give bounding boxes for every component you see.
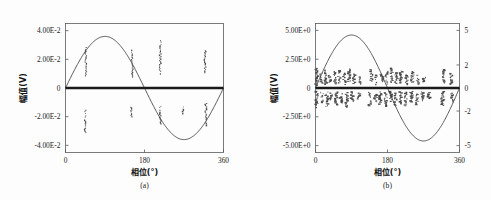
secondary-y-tick-label: -5 [465,141,471,150]
scatter-point [352,83,355,84]
scatter-point [416,75,418,76]
scatter-point [316,94,318,96]
scatter-point [160,52,161,53]
scatter-point [368,104,370,106]
x-tick-label: 360 [454,156,465,165]
scatter-point [321,101,324,102]
scatter-point [400,76,402,77]
scatter-point [412,71,414,73]
x-tick-label: 180 [382,156,393,165]
scatter-point [334,80,337,81]
scatter-point [384,93,386,94]
scatter-point [85,116,86,117]
scatter-point [371,73,373,74]
scatter-point [316,68,318,69]
scatter-point [443,80,445,81]
scatter-point [315,81,317,82]
scatter-point [317,93,318,94]
scatter-point [85,62,86,63]
scatter-point [131,60,132,61]
scatter-point [405,75,408,77]
scatter-point [452,75,454,77]
secondary-y-tick-label: 2 [465,61,469,70]
scatter-point [407,84,409,85]
scatter-point [349,74,352,75]
scatter-point [314,69,317,70]
scatter-point [84,129,85,130]
scatter-point [450,77,451,78]
scatter-point [326,103,328,104]
scatter-point [159,107,160,108]
scatter-point [132,71,133,72]
figure-svg: 4.00E-22.00E-20-2.00E-2-4.00E-2 0180360 … [0,0,491,200]
scatter-point [322,95,324,97]
scatter-point [326,94,327,96]
scatter-point [384,98,386,99]
scatter-point [368,92,369,93]
scatter-point [416,102,417,103]
scatter-point [204,58,205,59]
scatter-point [86,66,87,67]
x-tick-label: 360 [218,156,229,165]
scatter-point [416,97,418,98]
scatter-point [390,81,391,83]
scatter-point [443,91,446,92]
scatter-point [374,77,376,78]
scatter-point [315,91,318,92]
scatter-point [386,80,387,81]
scatter-point [417,101,418,102]
secondary-y-tick-label: -2 [465,107,471,116]
scatter-point [452,93,453,94]
scatter-point [338,70,341,71]
scatter-point [418,79,420,81]
scatter-point [160,71,161,72]
scatter-point [328,75,330,77]
scatter-point [396,80,398,81]
scatter-point [326,97,329,98]
scatter-point [412,91,414,92]
panel-a-x-axis-title: 相位(°) [131,167,158,177]
scatter-point [131,59,132,60]
scatter-point [159,60,160,61]
scatter-point [400,94,401,95]
y-tick-label: 2.50E+0 [285,55,311,64]
scatter-point [161,42,162,43]
scatter-point [395,83,397,84]
scatter-point [349,68,350,69]
scatter-point [340,96,342,98]
scatter-point [411,95,414,96]
secondary-y-tick-label: 0 [465,84,469,93]
scatter-point [410,79,412,80]
scatter-point [386,77,387,78]
scatter-point [370,103,372,104]
scatter-point [160,56,161,57]
scatter-point [344,73,346,75]
panel-b-caption: (b) [383,181,392,190]
scatter-point [327,96,329,97]
scatter-point [320,92,321,93]
scatter-point [183,109,184,110]
scatter-point [384,92,386,93]
scatter-point [315,92,317,93]
scatter-point [160,68,161,69]
scatter-point [159,69,160,70]
scatter-point [395,74,396,75]
scatter-point [390,101,392,102]
scatter-point [404,101,407,102]
y-tick-label: -2.00E-2 [34,112,60,121]
scatter-point [400,99,401,100]
scatter-point [360,83,361,84]
scatter-point [396,75,397,77]
scatter-point [85,111,86,112]
scatter-point [406,83,408,84]
scatter-point [375,84,376,86]
scatter-point [85,132,86,133]
scatter-point [132,70,133,71]
scatter-point [161,116,162,117]
scatter-point [344,75,345,76]
scatter-point [398,91,400,93]
scatter-point [131,57,132,58]
scatter-point [85,121,86,122]
scatter-point [405,95,406,96]
scatter-point [442,79,443,80]
